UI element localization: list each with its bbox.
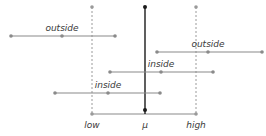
interval-outside: outside (155, 39, 264, 54)
interval-label: inside (148, 59, 175, 69)
guide-lines (90, 5, 198, 116)
interval-outside: outside (9, 23, 117, 38)
interval-start-point (155, 50, 159, 54)
interval-mid-point (60, 34, 64, 38)
interval-mid-point (206, 50, 210, 54)
interval-end-point (113, 34, 117, 38)
interval-inside: inside (108, 59, 215, 74)
high-axis-point (194, 112, 198, 116)
interval-end-point (260, 50, 264, 54)
confidence-interval-diagram: outsideoutsideinsideinside lowμhigh (0, 0, 266, 136)
interval-start-point (53, 91, 57, 95)
mu-label: μ (141, 120, 148, 130)
interval-end-point (158, 91, 162, 95)
interval-end-point (211, 70, 215, 74)
interval-label: inside (95, 80, 122, 90)
low-label: low (84, 120, 100, 130)
interval-label: outside (45, 23, 79, 33)
interval-mid-point (106, 91, 110, 95)
interval-start-point (9, 34, 13, 38)
mu-axis-point (143, 108, 147, 112)
high-label: high (186, 120, 206, 130)
axis-labels: lowμhigh (84, 120, 206, 130)
interval-start-point (108, 70, 112, 74)
interval-mid-point (159, 70, 163, 74)
mu-top-point (143, 5, 147, 9)
low-top-point (90, 5, 94, 9)
low-axis-point (90, 112, 94, 116)
interval-label: outside (191, 39, 225, 49)
interval-lines: outsideoutsideinsideinside (9, 23, 264, 95)
high-top-point (194, 5, 198, 9)
